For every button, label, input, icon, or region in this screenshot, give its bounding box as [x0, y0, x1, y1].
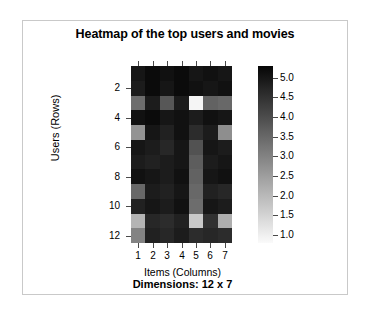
heatmap-cell — [174, 81, 188, 96]
heatmap-cell — [145, 228, 159, 243]
heatmap-cell — [189, 228, 203, 243]
heatmap-cell — [131, 155, 145, 170]
y-tick-mark — [126, 147, 131, 148]
heatmap-cell — [160, 214, 174, 229]
colorbar-tick-label: 2.0 — [280, 191, 306, 201]
heatmap-cell — [174, 110, 188, 125]
y-tick-mark — [126, 88, 131, 89]
x-tick-mark-top — [196, 61, 197, 66]
x-tick-label: 6 — [203, 251, 217, 261]
heatmap-cell — [218, 155, 232, 170]
y-tick-label: 4 — [98, 113, 120, 123]
heatmap-cell — [160, 110, 174, 125]
heatmap-grid — [131, 66, 232, 243]
x-tick-label: 5 — [189, 251, 203, 261]
heatmap-cell — [218, 96, 232, 111]
x-tick-mark — [182, 243, 183, 248]
colorbar-tick-mark — [273, 176, 278, 177]
heatmap-plot-area — [131, 66, 232, 243]
heatmap-cell — [174, 155, 188, 170]
y-tick-mark — [126, 236, 131, 237]
dimensions-note: Dimensions: 12 x 7 — [110, 278, 255, 290]
x-tick-mark — [210, 243, 211, 248]
heatmap-cell — [203, 199, 217, 214]
heatmap-cell — [218, 184, 232, 199]
colorbar-tick-label: 5.0 — [280, 73, 306, 83]
heatmap-cell — [131, 169, 145, 184]
heatmap-cell — [203, 125, 217, 140]
x-tick-mark — [153, 243, 154, 248]
heatmap-cell — [145, 96, 159, 111]
x-tick-mark — [196, 243, 197, 248]
heatmap-cell — [145, 155, 159, 170]
heatmap-cell — [160, 155, 174, 170]
heatmap-cell — [218, 169, 232, 184]
heatmap-cell — [189, 140, 203, 155]
heatmap-cell — [174, 214, 188, 229]
y-tick-mark — [126, 118, 131, 119]
colorbar-tick-label: 3.5 — [280, 132, 306, 142]
heatmap-cell — [131, 110, 145, 125]
colorbar-tick-label: 1.5 — [280, 210, 306, 220]
x-tick-mark-top — [225, 61, 226, 66]
colorbar-tick-mark — [273, 196, 278, 197]
y-axis-label: Users (Rows) — [49, 68, 61, 188]
heatmap-cell — [131, 96, 145, 111]
heatmap-cell — [189, 110, 203, 125]
heatmap-cell — [203, 110, 217, 125]
heatmap-cell — [203, 155, 217, 170]
heatmap-cell — [189, 184, 203, 199]
heatmap-cell — [189, 96, 203, 111]
heatmap-cell — [174, 66, 188, 81]
heatmap-cell — [145, 184, 159, 199]
heatmap-cell — [131, 140, 145, 155]
heatmap-cell — [189, 214, 203, 229]
y-tick-label: 2 — [98, 83, 120, 93]
colorbar-tick-label: 1.0 — [280, 230, 306, 240]
colorbar-tick-label: 2.5 — [280, 171, 306, 181]
heatmap-cell — [160, 125, 174, 140]
x-tick-label: 7 — [218, 251, 232, 261]
heatmap-cell — [160, 96, 174, 111]
heatmap-cell — [174, 140, 188, 155]
heatmap-cell — [160, 169, 174, 184]
heatmap-cell — [131, 66, 145, 81]
heatmap-cell — [174, 199, 188, 214]
heatmap-cell — [218, 199, 232, 214]
colorbar-tick-mark — [273, 137, 278, 138]
heatmap-cell — [218, 81, 232, 96]
colorbar-tick-mark — [273, 78, 278, 79]
x-tick-mark — [138, 243, 139, 248]
heatmap-cell — [131, 214, 145, 229]
y-tick-mark — [126, 177, 131, 178]
x-tick-label: 3 — [160, 251, 174, 261]
colorbar-gradient — [258, 66, 273, 243]
heatmap-cell — [189, 66, 203, 81]
y-tick-label: 6 — [98, 142, 120, 152]
heatmap-cell — [131, 199, 145, 214]
x-tick-mark — [225, 243, 226, 248]
colorbar-tick-mark — [273, 156, 278, 157]
colorbar-tick-mark — [273, 97, 278, 98]
heatmap-cell — [189, 155, 203, 170]
x-tick-mark — [167, 243, 168, 248]
y-tick-label: 10 — [98, 201, 120, 211]
x-tick-mark-top — [182, 61, 183, 66]
heatmap-cell — [203, 228, 217, 243]
x-tick-mark-top — [210, 61, 211, 66]
heatmap-cell — [160, 140, 174, 155]
heatmap-cell — [203, 214, 217, 229]
colorbar-tick-mark — [273, 215, 278, 216]
heatmap-cell — [218, 66, 232, 81]
colorbar-tick-label: 3.0 — [280, 151, 306, 161]
heatmap-cell — [174, 169, 188, 184]
y-tick-mark — [126, 206, 131, 207]
heatmap-cell — [174, 125, 188, 140]
heatmap-cell — [189, 169, 203, 184]
heatmap-cell — [218, 228, 232, 243]
heatmap-cell — [131, 125, 145, 140]
heatmap-cell — [145, 169, 159, 184]
heatmap-cell — [145, 81, 159, 96]
x-tick-mark-top — [153, 61, 154, 66]
x-tick-label: 2 — [146, 251, 160, 261]
